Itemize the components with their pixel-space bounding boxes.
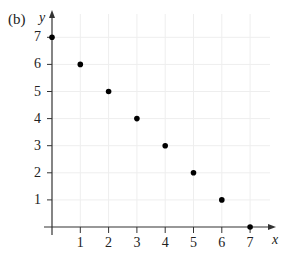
data-point <box>134 116 140 122</box>
data-point <box>219 197 225 203</box>
y-tick-label: 6 <box>29 57 41 71</box>
x-tick-label: 5 <box>190 236 197 250</box>
scatter-plot <box>0 0 281 260</box>
x-tick-label: 6 <box>218 236 225 250</box>
y-tick-label: 5 <box>29 85 41 99</box>
x-axis-label: x <box>272 233 278 247</box>
x-tick-label: 7 <box>247 236 254 250</box>
y-axis-label: y <box>39 11 45 25</box>
x-tick-label: 1 <box>77 236 84 250</box>
y-axis-arrow-icon <box>49 10 55 18</box>
y-tick-label: 2 <box>29 166 41 180</box>
x-tick-label: 2 <box>105 236 112 250</box>
y-tick-label: 3 <box>29 139 41 153</box>
data-point <box>78 62 84 68</box>
data-point <box>106 89 112 95</box>
data-point <box>191 170 197 176</box>
data-point <box>162 143 168 149</box>
y-tick-label: 1 <box>29 193 41 207</box>
y-tick-label: 4 <box>29 112 41 126</box>
x-tick-label: 3 <box>133 236 140 250</box>
data-point <box>49 35 55 41</box>
data-point <box>247 224 253 230</box>
x-axis-arrow-icon <box>268 224 276 230</box>
y-tick-label: 7 <box>29 30 41 44</box>
x-tick-label: 4 <box>162 236 169 250</box>
